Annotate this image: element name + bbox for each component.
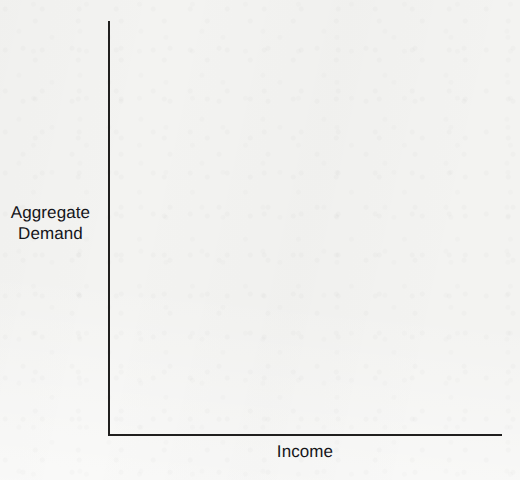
y-axis-label-line-1: Aggregate [0,202,101,223]
y-axis-line [108,21,110,436]
economics-diagram-figure: Aggregate Demand Income [0,0,520,480]
y-axis-label-line-2: Demand [0,223,101,244]
x-axis-label: Income [108,441,502,462]
y-axis-label: Aggregate Demand [0,202,101,244]
x-axis-line [108,434,502,436]
